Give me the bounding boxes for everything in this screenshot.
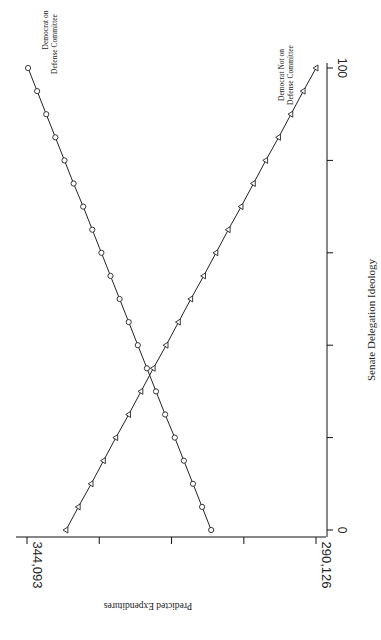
series-democrat-on-committee (25, 65, 213, 532)
circle-marker (181, 458, 186, 463)
circle-marker (117, 296, 122, 301)
circle-marker (153, 389, 158, 394)
y-axis-title: Predicted Expenditures (104, 601, 193, 611)
circle-marker (144, 366, 149, 371)
x-axis-title: Senate Delegation Ideology (365, 258, 377, 381)
circle-marker (108, 273, 113, 278)
series-democrat-not-on-committee (63, 65, 318, 533)
svg-text:Democrat on: Democrat on (41, 10, 50, 49)
x-tick-label-max: 100 (335, 58, 349, 78)
circle-marker (135, 343, 140, 348)
annotation-democrat-on: Democrat on Defense Committee (41, 10, 59, 74)
circle-marker (126, 320, 131, 325)
x-tick-label-min: 0 (335, 527, 349, 534)
circle-marker (172, 435, 177, 440)
annotation-democrat-not-on: Democrat Not on Defense Committee (277, 44, 295, 104)
svg-text:Defense Committee: Defense Committee (286, 44, 295, 104)
circle-marker (71, 181, 76, 186)
circle-marker (35, 89, 40, 94)
circle-marker (53, 135, 58, 140)
y-tick-label-min: 290,126 (319, 542, 334, 589)
y-axis: 344,093 290,126 Predicted Expenditures (16, 537, 334, 611)
y-tick-label-max: 344,093 (30, 542, 45, 589)
triangle-marker (63, 527, 68, 533)
line-chart: 344,093 290,126 Predicted Expenditures 0… (0, 0, 381, 640)
circle-marker (199, 504, 204, 509)
circle-marker (90, 227, 95, 232)
svg-text:Defense Committee: Defense Committee (50, 13, 59, 73)
circle-marker (81, 204, 86, 209)
circle-marker (62, 158, 67, 163)
circle-marker (209, 527, 214, 532)
circle-marker (44, 112, 49, 117)
plot-area (25, 65, 318, 533)
x-axis: 0 100 Senate Delegation Ideology (327, 58, 377, 537)
circle-marker (99, 250, 104, 255)
circle-marker (25, 65, 30, 70)
circle-marker (163, 412, 168, 417)
circle-marker (190, 481, 195, 486)
svg-text:Democrat Not on: Democrat Not on (277, 49, 286, 101)
